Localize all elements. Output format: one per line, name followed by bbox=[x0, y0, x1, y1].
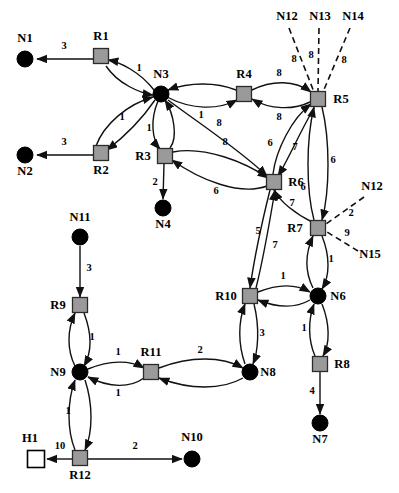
edge-weight-N14t-R5: 8 bbox=[341, 54, 346, 65]
edge-R4-to-N3 bbox=[168, 84, 236, 90]
edge-weight-R10-R6: 7 bbox=[272, 239, 277, 250]
node-label-R5: R5 bbox=[333, 92, 348, 106]
edge-R5-to-R4 bbox=[252, 99, 310, 108]
edge-N9-to-R12 bbox=[85, 380, 91, 450]
edge-weight-R5-R7: 6 bbox=[330, 154, 335, 165]
node-R4[interactable] bbox=[237, 87, 252, 102]
edge-R5-to-R7 bbox=[322, 107, 328, 220]
edge-N6-to-R7 bbox=[307, 236, 313, 288]
edge-N13t-to-R5 bbox=[318, 28, 319, 91]
edge-weight-R9-N9: 1 bbox=[89, 331, 94, 342]
node-label-N6: N6 bbox=[330, 289, 345, 303]
node-N10[interactable] bbox=[184, 451, 200, 467]
node-N3[interactable] bbox=[153, 86, 169, 102]
node-R10[interactable] bbox=[243, 289, 258, 304]
node-R1[interactable] bbox=[94, 49, 109, 64]
labels-layer: 31131218886867667571114331112110288829N1… bbox=[17, 9, 382, 482]
node-R7[interactable] bbox=[311, 221, 326, 236]
node-R9[interactable] bbox=[73, 298, 88, 313]
edge-R7-to-R5 bbox=[308, 107, 314, 220]
edge-weight-R5-R6: 7 bbox=[292, 141, 297, 152]
edge-weight-N12t-R5: 8 bbox=[291, 53, 296, 64]
edge-N15-to-R7 bbox=[327, 232, 358, 251]
node-N2[interactable] bbox=[17, 147, 33, 163]
node-label-N11: N11 bbox=[70, 210, 91, 224]
node-R5[interactable] bbox=[311, 92, 326, 107]
edge-R11-to-N9 bbox=[88, 377, 144, 385]
edge-N9-to-R11 bbox=[88, 362, 144, 369]
node-label-R3: R3 bbox=[135, 149, 150, 163]
node-label-N4: N4 bbox=[155, 217, 171, 231]
edge-weight-R6-R3: 6 bbox=[213, 185, 218, 196]
edge-N8-to-R11 bbox=[159, 378, 243, 387]
edge-R11-to-N8 bbox=[159, 359, 243, 368]
node-N6[interactable] bbox=[310, 288, 326, 304]
node-label-R10: R10 bbox=[215, 289, 237, 303]
edge-R4-to-R5 bbox=[252, 83, 311, 92]
node-label-N12t: N12 bbox=[276, 9, 298, 23]
node-label-N2: N2 bbox=[17, 164, 32, 178]
edge-weight-R11-N8: 2 bbox=[197, 344, 202, 355]
edge-weight-R12-H1: 10 bbox=[55, 440, 66, 451]
node-N9[interactable] bbox=[72, 364, 88, 380]
node-R11[interactable] bbox=[144, 365, 159, 380]
node-R12[interactable] bbox=[73, 451, 88, 466]
node-R8[interactable] bbox=[313, 357, 328, 372]
node-N8[interactable] bbox=[242, 364, 258, 380]
node-label-R2: R2 bbox=[93, 163, 108, 177]
node-label-R12: R12 bbox=[69, 468, 91, 482]
edge-weight-N3-R4: 1 bbox=[198, 109, 203, 120]
edge-N6-to-R10 bbox=[258, 300, 310, 306]
edge-weight-R3-N4: 2 bbox=[152, 176, 157, 187]
edge-weight-R8-N7: 4 bbox=[309, 385, 315, 396]
node-N11[interactable] bbox=[72, 229, 88, 245]
node-label-N12b: N12 bbox=[361, 179, 383, 193]
edge-weight-N12b-R7: 2 bbox=[348, 207, 353, 218]
node-label-R8: R8 bbox=[334, 357, 349, 371]
edge-weight-R6-R5: 6 bbox=[267, 137, 272, 148]
edge-R10-to-N8 bbox=[253, 304, 258, 364]
node-label-N9: N9 bbox=[50, 365, 65, 379]
edge-weight-R7-N6: 1 bbox=[328, 253, 333, 264]
node-label-R6: R6 bbox=[288, 175, 303, 189]
node-N1[interactable] bbox=[17, 51, 33, 67]
node-label-R11: R11 bbox=[141, 345, 162, 359]
edge-R7-to-N6 bbox=[322, 236, 328, 289]
edge-weight-N6-R8: 1 bbox=[301, 322, 306, 333]
edge-weight-R4-R5: 8 bbox=[276, 67, 281, 78]
node-R6[interactable] bbox=[267, 175, 282, 190]
edge-weight-N3-R6: 8 bbox=[216, 117, 221, 128]
edge-weight-N3-R2: 1 bbox=[119, 111, 124, 122]
edge-N3-to-R4 bbox=[167, 97, 237, 107]
edge-weight-R6-R10: 5 bbox=[255, 225, 260, 236]
edge-weight-R11-N9: 1 bbox=[115, 387, 120, 398]
node-label-N7: N7 bbox=[312, 432, 327, 446]
edge-N12b-to-R7 bbox=[326, 197, 364, 224]
edge-weight-R1-N1: 3 bbox=[61, 40, 66, 51]
node-label-N15: N15 bbox=[359, 247, 381, 261]
node-R3[interactable] bbox=[158, 149, 173, 164]
edge-N9-to-R9 bbox=[69, 313, 75, 366]
edge-weight-N9-R12: 1 bbox=[65, 405, 70, 416]
edge-weight-R3-R6: 8 bbox=[222, 136, 227, 147]
edge-weight-R10-N6: 1 bbox=[280, 270, 285, 281]
edge-weight-R5-R4: 8 bbox=[276, 111, 281, 122]
edge-R10-to-N6 bbox=[258, 286, 310, 292]
node-H1[interactable] bbox=[28, 451, 45, 468]
edge-weight-N11-R9: 3 bbox=[86, 262, 91, 273]
edge-weight-R12-N10: 2 bbox=[132, 440, 137, 451]
node-label-R7: R7 bbox=[287, 221, 302, 235]
edge-R3-to-N4 bbox=[163, 164, 164, 199]
node-label-H1: H1 bbox=[22, 431, 38, 445]
node-N7[interactable] bbox=[312, 415, 328, 431]
edge-weight-R7-R6: 7 bbox=[289, 197, 294, 208]
edge-N3-to-R1 bbox=[108, 60, 154, 90]
edge-weight-N3-R3: 1 bbox=[146, 122, 151, 133]
node-N4[interactable] bbox=[155, 200, 171, 216]
node-label-R9: R9 bbox=[50, 298, 65, 312]
edge-N6-to-R8 bbox=[322, 304, 328, 356]
edge-weight-N3-R1: 1 bbox=[136, 62, 141, 73]
node-label-N1: N1 bbox=[17, 31, 32, 45]
node-R2[interactable] bbox=[94, 146, 109, 161]
node-label-N14t: N14 bbox=[342, 9, 364, 23]
